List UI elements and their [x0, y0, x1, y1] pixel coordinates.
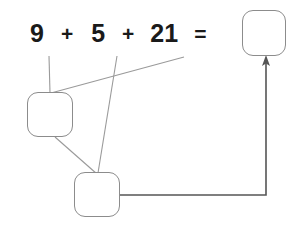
partial-bottom-box[interactable] — [74, 172, 120, 217]
equation-term-2: 5 — [91, 21, 105, 46]
equation-equals-sign: = — [194, 23, 206, 44]
connector-bottom-box-to-answer-arrow — [120, 62, 266, 195]
worksheet-canvas: 9 + 5 + 21 = — [0, 0, 300, 233]
answer-box[interactable] — [242, 10, 286, 56]
partial-left-box[interactable] — [27, 92, 73, 137]
equation-operator-1: + — [61, 23, 73, 44]
equation-row: 9 + 5 + 21 = — [0, 16, 240, 50]
equation-term-3: 21 — [150, 21, 178, 46]
equation-operator-2: + — [122, 23, 134, 44]
connector-9-to-left-box — [49, 56, 50, 93]
connector-left-box-to-bottom-box — [55, 137, 97, 174]
connector-21-to-left-box — [51, 57, 184, 93]
equation-term-1: 9 — [30, 21, 44, 46]
connector-5-to-bottom-box — [98, 56, 117, 173]
